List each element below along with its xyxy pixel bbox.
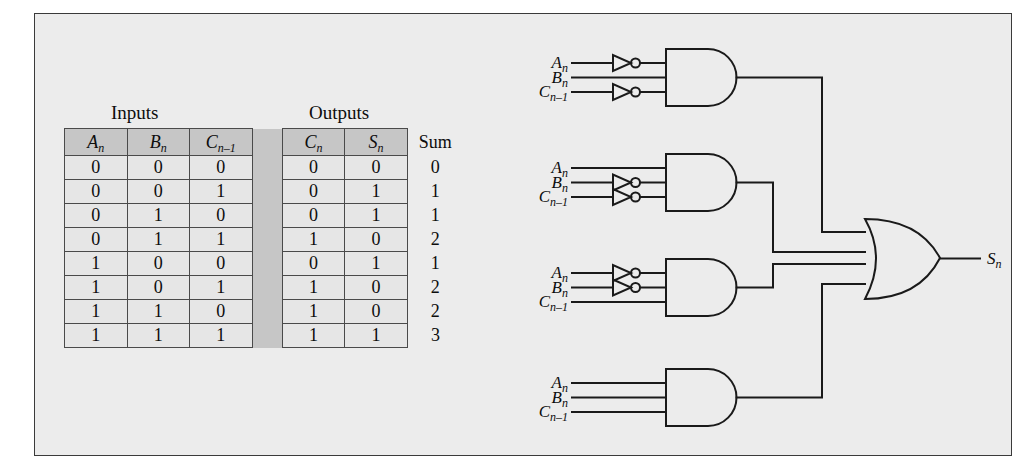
and-gate-1-inverter-c-triangle [613,84,631,100]
and-gate-2-inverter-b-triangle [613,175,631,191]
output-label-sn-base: S [987,249,996,268]
and-gate-1-label-c: Cn–1 [503,82,568,102]
and-gate-1-inverter-a-triangle [613,55,631,71]
output-label-sn: Sn [987,249,1002,269]
figure-frame: Inputs Outputs An Bn Cn–1 [34,13,1012,456]
and-gate-3-label-c-sub: n–1 [550,300,568,314]
output-label-sn-sub: n [996,257,1002,271]
and-gate-3-label-c-base: C [539,292,550,311]
and-gate-1-output-wire [737,78,866,233]
and-gate-3-body [666,259,737,316]
and-gate-2-label-c: Cn–1 [503,187,568,207]
and-gate-4-label-c-sub: n–1 [550,410,568,424]
and-gate-2-inverter-c-triangle [613,189,631,205]
and-gate-2-output-wire [737,183,866,253]
and-gate-2-label-c-sub: n–1 [550,195,568,209]
and-gate-1-label-c-base: C [539,82,550,101]
or-gate-1-body [865,219,940,299]
and-gate-3-inverter-a-triangle [613,265,631,281]
and-gate-4-output-wire [737,284,866,398]
and-gate-1-body [666,49,737,106]
and-gate-1-label-c-sub: n–1 [550,90,568,104]
and-gate-4-label-c-base: C [539,402,550,421]
and-gate-3-inverter-b-triangle [613,280,631,296]
and-gate-3-label-c: Cn–1 [503,292,568,312]
and-gate-2-label-c-base: C [539,187,550,206]
and-gate-2-body [666,154,737,211]
and-gate-4-body [666,369,737,426]
and-gate-4-label-c: Cn–1 [503,402,568,422]
